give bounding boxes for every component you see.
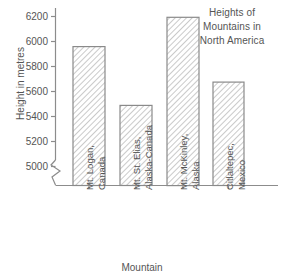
- y-tick-label-5600: 5600: [4, 87, 48, 97]
- y-axis-title: Height in metres: [15, 25, 26, 143]
- y-tick-label-5000: 5000: [4, 162, 48, 172]
- y-tick-marks: [51, 17, 56, 167]
- x-label-mt-st-elias-line-2: Alaska-Canada: [143, 125, 155, 190]
- axis-break-icon: [51, 160, 60, 185]
- y-tick-label-5200: 5200: [4, 137, 48, 147]
- x-axis-title: Mountain: [0, 262, 284, 273]
- y-tick-label-5400: 5400: [4, 112, 48, 122]
- x-label-mt-mckinley-line-2: Alaska: [190, 134, 202, 190]
- chart-title-line-3: North America: [184, 34, 280, 48]
- x-label-mt-mckinley-line-1: Mt. McKinley,: [178, 134, 190, 190]
- y-tick-label-5800: 5800: [4, 62, 48, 72]
- y-tick-label-6200: 6200: [4, 12, 48, 22]
- x-label-mt-st-elias-line-1: Mt. St. Elias,: [131, 125, 143, 190]
- chart-title-line-1: Heights of: [184, 6, 280, 20]
- y-tick-label-6000: 6000: [4, 37, 48, 47]
- x-label-citlaltepec-line-1: Citlaltepec,: [224, 143, 236, 190]
- chart-title-line-2: Mountains in: [184, 20, 280, 34]
- x-label-citlaltepec-line-2: Mexico: [236, 143, 248, 190]
- chart-title: Heights of Mountains in North America: [184, 6, 280, 48]
- x-label-mt-logan-line-2: Canada: [96, 145, 108, 190]
- bar-chart: Heights of Mountains in North America 62…: [0, 0, 284, 279]
- x-label-mt-logan-line-1: Mt. Logan,: [84, 145, 96, 190]
